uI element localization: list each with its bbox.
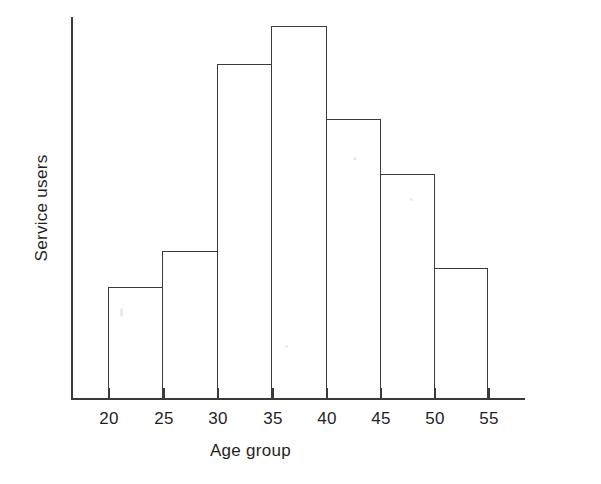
x-tick-4 (326, 388, 328, 399)
x-tick-label-20: 20 (89, 409, 129, 429)
y-axis-title: Service users (32, 108, 52, 308)
x-tick-7 (488, 388, 490, 399)
scan-speckle (120, 308, 123, 317)
bar-45-50 (380, 174, 435, 399)
scan-speckle (285, 345, 288, 348)
scan-speckle (410, 198, 413, 201)
x-tick-label-25: 25 (144, 409, 184, 429)
x-axis-title: Age group (0, 441, 601, 461)
bar-40-45 (326, 119, 381, 399)
bar-50-55 (434, 268, 488, 399)
x-tick-label-55: 55 (469, 409, 509, 429)
x-tick-label-35: 35 (253, 409, 293, 429)
x-tick-label-50: 50 (415, 409, 455, 429)
x-tick-0 (108, 388, 110, 399)
x-tick-6 (434, 388, 436, 399)
x-tick-label-30: 30 (198, 409, 238, 429)
x-tick-2 (217, 388, 219, 399)
y-axis-line (71, 17, 73, 400)
scan-speckle (353, 157, 357, 160)
x-tick-1 (163, 388, 165, 399)
bar-20-25 (108, 287, 163, 399)
x-axis-title-text: Age group (210, 441, 291, 461)
histogram-chart: 20 25 30 35 40 45 50 55 Age group Servic… (0, 0, 601, 484)
bar-35-40 (271, 26, 327, 399)
x-tick-label-45: 45 (361, 409, 401, 429)
x-tick-3 (272, 388, 274, 399)
x-tick-label-40: 40 (307, 409, 347, 429)
bar-30-35 (217, 64, 272, 399)
x-tick-5 (380, 388, 382, 399)
bar-25-30 (162, 251, 218, 399)
